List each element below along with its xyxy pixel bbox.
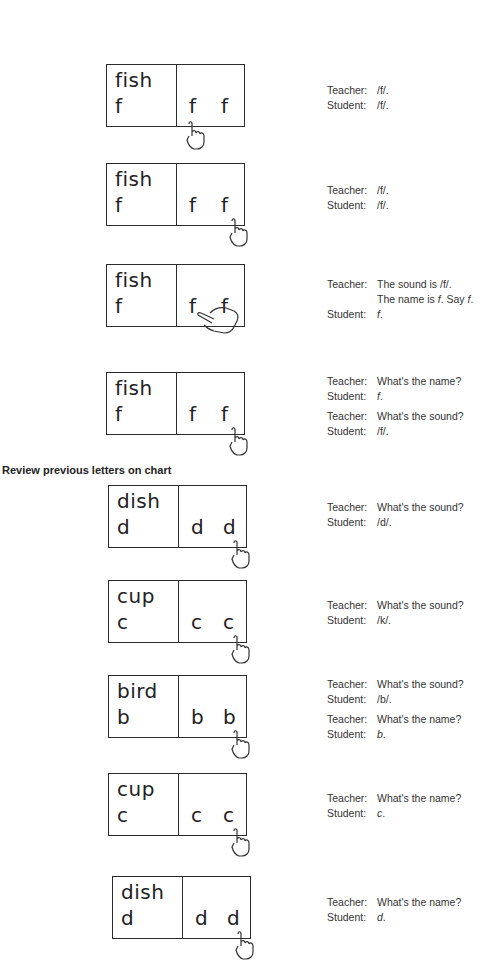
dialog-line: Teacher:/f/. [327,183,389,198]
dialog-line: Student:/d/. [327,515,464,530]
card-divider [176,373,177,434]
dialog-text: What's the name? [377,712,461,727]
card-letter-first: d [191,515,204,539]
speaker-label: Teacher: [327,277,377,292]
pointing-hand-icon [230,827,252,857]
card-key-letter: b [117,705,130,729]
letter-card-6: cup c c c [108,580,247,643]
speaker-label: Student: [327,806,377,821]
card-divider [178,774,179,835]
dialog-text: The sound is /f/. [377,277,452,292]
card-word: fish [115,376,153,400]
speaker-label: Student: [327,307,377,322]
dialog-text: c. [377,806,385,821]
dialog-text: f. [377,389,383,404]
card-key-letter: f [115,294,122,318]
card-divider [176,265,177,326]
card-key-letter: d [117,515,130,539]
speaker-label: Teacher: [327,677,377,692]
letter-card-2: fish f f f [106,163,245,226]
pointing-hand-icon [228,426,250,456]
card-letter-first: c [191,803,202,827]
speaker-label: Teacher: [327,409,377,424]
pointing-hand-icon [185,120,207,150]
card-word: cup [117,777,155,801]
card-key-letter: f [115,402,122,426]
dialog-line: Student:f. [327,307,473,322]
card-letter-second: f [221,402,228,426]
card-letter-first: d [195,906,208,930]
dialog-line: Teacher:What's the sound? [327,500,464,515]
dialog-text: d. [377,910,386,925]
dialog-line: Teacher:What's the name? [327,895,461,910]
card-letter-second: c [223,803,234,827]
dialog-1: Teacher:/f/. Student:/f/. [327,83,389,113]
letter-card-8: cup c c c [108,773,247,836]
dialog-text: What's the sound? [377,598,464,613]
dialog-line: Student:/k/. [327,613,464,628]
card-letter-first: c [191,610,202,634]
dialog-line: Teacher:What's the name? [327,712,464,727]
dialog-line: Student:/b/. [327,692,464,707]
dialog-line: Teacher:What's the name? [327,791,461,806]
speaker-label: Student: [327,692,377,707]
card-letter-first: f [189,94,196,118]
card-letter-second: f [221,193,228,217]
speaker-label: Teacher: [327,791,377,806]
card-key-letter: f [115,94,122,118]
dialog-text: /d/. [377,515,392,530]
dialog-text: What's the sound? [377,677,464,692]
dialog-text: What's the name? [377,895,461,910]
card-word: fish [115,68,153,92]
dialog-text: /k/. [377,613,391,628]
dialog-line: Student:/f/. [327,98,389,113]
speaker-label: Student: [327,727,377,742]
speaker-label: Teacher: [327,83,377,98]
card-word: cup [117,584,155,608]
speaker-label: Student: [327,910,377,925]
dialog-6: Teacher:What's the sound? Student:/k/. [327,598,464,628]
letter-card-4: fish f f f [106,372,245,435]
card-letter-second: d [223,515,236,539]
dialog-line: Student:/f/. [327,198,389,213]
card-letter-second: c [223,610,234,634]
dialog-text: What's the name? [377,791,461,806]
speaker-label: Student: [327,613,377,628]
pointing-hand-icon [228,217,250,247]
dialog-text: The name is f. Say f. [377,292,473,307]
card-word: dish [117,489,160,513]
letter-card-5: dish d d d [108,485,247,548]
card-letter-second: d [227,906,240,930]
card-key-letter: d [121,906,134,930]
dialog-text: /f/. [377,183,389,198]
dialog-text: b. [377,727,386,742]
card-letter-first: f [189,402,196,426]
card-word: fish [115,268,153,292]
card-key-letter: c [117,803,128,827]
dialog-text: What's the sound? [377,409,464,424]
dialog-line: Teacher:What's the sound? [327,409,464,424]
dialog-line: Teacher:/f/. [327,83,389,98]
dialog-line: Student:/f/. [327,424,464,439]
pointing-hand-icon [230,539,252,569]
dialog-7: Teacher:What's the sound? Student:/b/. T… [327,677,464,742]
speaker-label: Student: [327,515,377,530]
speaker-label: Student: [327,198,377,213]
dialog-text: /f/. [377,98,389,113]
dialog-text: What's the name? [377,374,461,389]
card-divider [178,676,179,737]
card-divider [176,164,177,225]
dialog-line: Student:d. [327,910,461,925]
dialog-text: What's the sound? [377,500,464,515]
dialog-line: Teacher:The sound is /f/. [327,277,473,292]
card-letter-first: f [189,193,196,217]
speaker-label: Student: [327,424,377,439]
card-letter-first: b [191,705,204,729]
dialog-5: Teacher:What's the sound? Student:/d/. [327,500,464,530]
speaker-label: Teacher: [327,895,377,910]
section-heading: Review previous letters on chart [2,464,171,476]
dialog-line: Teacher:What's the name? [327,374,464,389]
dialog-4: Teacher:What's the name? Student:f. Teac… [327,374,464,439]
speaker-label: Student: [327,98,377,113]
speaker-label: Teacher: [327,183,377,198]
